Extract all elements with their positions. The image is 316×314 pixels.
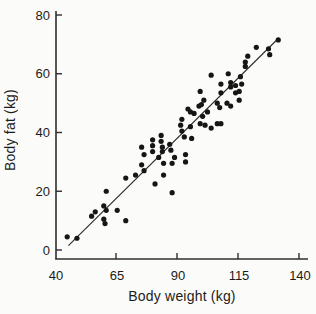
scatter-plot-canvas: 020406080406590115140 [0,0,316,314]
data-point [218,90,223,95]
data-point [182,134,187,139]
data-point [217,105,222,110]
y-tick-label: 20 [36,184,50,199]
data-point [276,37,281,42]
data-point [218,81,223,86]
data-point [152,181,157,186]
data-point [156,155,161,160]
data-point [168,148,173,153]
data-point [183,152,188,157]
data-point [170,190,175,195]
y-tick-label: 60 [36,66,50,81]
data-point [209,125,214,130]
data-point [123,175,128,180]
data-point [228,103,233,108]
data-point [139,145,144,150]
data-point [266,46,271,51]
data-point [104,208,109,213]
data-point [201,98,206,103]
data-point [189,136,194,141]
data-point [238,74,243,79]
data-point [237,98,242,103]
x-tick-label: 90 [171,268,185,283]
data-point [160,149,165,154]
scatter-plot-figure: 020406080406590115140 Body fat (kg) Body… [0,0,316,314]
data-point [101,203,106,208]
data-point [170,161,175,166]
data-point [218,121,223,126]
x-tick-label: 115 [229,268,250,283]
y-tick-label: 80 [36,8,50,23]
data-point [254,45,259,50]
data-point [215,101,220,106]
data-point [89,214,94,219]
data-point [183,159,188,164]
data-point [141,168,146,173]
data-point [205,109,210,114]
data-point [101,217,106,222]
data-point [123,218,128,223]
data-point [237,89,242,94]
data-point [202,123,207,128]
data-point [93,209,98,214]
data-point [243,59,248,64]
data-point [141,152,146,157]
data-point [198,121,203,126]
data-point [172,155,177,160]
data-point [209,73,214,78]
data-point [150,137,155,142]
data-point [200,114,205,119]
y-tick-label: 40 [36,125,50,140]
data-point [150,149,155,154]
data-point [167,142,172,147]
data-point [161,161,166,166]
data-point [188,124,193,129]
data-point [139,162,144,167]
data-point [133,172,138,177]
data-point [150,143,155,148]
data-point [159,139,164,144]
data-point [233,83,238,88]
data-point [102,221,107,226]
x-tick-label: 40 [49,268,63,283]
data-point [179,128,184,133]
data-point [267,52,272,57]
data-point [179,117,184,122]
x-axis-title: Body weight (kg) [56,288,308,304]
data-point [65,234,70,239]
data-point [115,208,120,213]
data-point [159,133,164,138]
data-point [161,172,166,177]
data-point [226,71,231,76]
x-tick-label: 65 [110,268,124,283]
x-tick-label: 140 [289,268,311,283]
data-point [74,236,79,241]
data-point [239,81,244,86]
data-point [104,189,109,194]
regression-line [68,39,278,246]
data-point [191,111,196,116]
data-point [228,84,233,89]
data-point [198,89,203,94]
y-axis-title: Body fat (kg) [2,66,18,194]
y-tick-label: 0 [43,243,50,258]
data-point [245,54,250,59]
data-point [199,102,204,107]
data-point [178,123,183,128]
